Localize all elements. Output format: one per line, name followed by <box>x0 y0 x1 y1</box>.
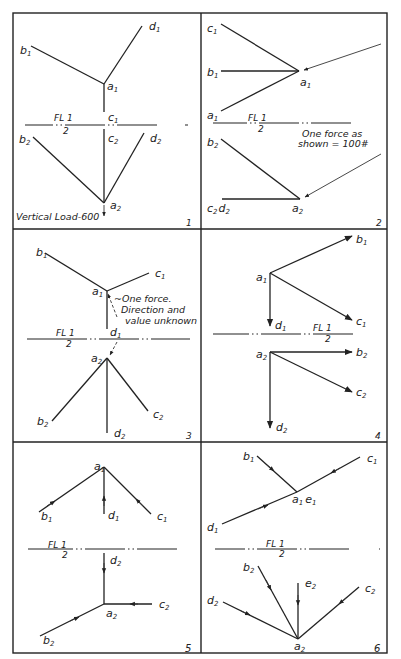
svg-text:FL 1: FL 1 <box>56 328 75 338</box>
svg-text:c1: c1 <box>155 267 166 281</box>
svg-text:d1: d1 <box>149 20 160 34</box>
svg-text:b2: b2 <box>356 346 368 360</box>
svg-text:b2: b2 <box>19 133 31 147</box>
panel-6: b1 c1 a1e1 d1 FL 1 2 b2 e2 c2 d2 a2 6 <box>207 450 380 654</box>
svg-text:c1: c1 <box>207 22 218 36</box>
svg-text:c2: c2 <box>153 408 164 422</box>
svg-text:b1: b1 <box>20 44 31 58</box>
svg-text:b2: b2 <box>37 415 49 429</box>
svg-text:b2: b2 <box>43 634 55 648</box>
svg-text:c1: c1 <box>356 315 367 329</box>
svg-text:2: 2 <box>325 334 331 344</box>
svg-text:a1e1: a1e1 <box>292 493 316 507</box>
svg-text:c2: c2 <box>365 582 376 596</box>
force-diagram-sheet: b1 d1 a1 c1 FL 1 2 b2 c2 d2 a2 Vertical … <box>0 0 401 659</box>
svg-text:6: 6 <box>374 643 380 654</box>
svg-text:3: 3 <box>186 431 192 441</box>
svg-text:2: 2 <box>279 549 285 559</box>
svg-text:a1: a1 <box>107 80 118 94</box>
svg-text:d2: d2 <box>150 132 162 146</box>
svg-text:a2: a2 <box>91 352 103 366</box>
svg-text:FL 1: FL 1 <box>266 539 285 549</box>
svg-text:b1: b1 <box>36 246 47 260</box>
svg-text:a2: a2 <box>256 348 268 362</box>
svg-text:FL 1: FL 1 <box>313 323 332 333</box>
fold-line-label: FL 1 <box>54 113 73 123</box>
svg-text:c2: c2 <box>108 132 119 146</box>
svg-text:2: 2 <box>258 124 264 134</box>
svg-text:e2: e2 <box>305 577 317 591</box>
panel-1: b1 d1 a1 c1 FL 1 2 b2 c2 d2 a2 Vertical … <box>16 20 192 228</box>
svg-text:c2: c2 <box>159 598 170 612</box>
svg-text:2: 2 <box>66 339 72 349</box>
svg-text:c1: c1 <box>157 510 168 524</box>
svg-text:FL 1: FL 1 <box>248 113 267 123</box>
unknown-force-note: ~One force. <box>114 293 171 304</box>
svg-text:c1: c1 <box>108 111 119 125</box>
svg-text:a1: a1 <box>94 460 105 474</box>
svg-text:d2: d2 <box>276 421 288 435</box>
svg-text:d2: d2 <box>207 594 219 608</box>
svg-text:value unknown: value unknown <box>125 315 197 326</box>
svg-text:a1: a1 <box>300 76 311 90</box>
svg-text:FL 1: FL 1 <box>48 540 67 550</box>
svg-text:2: 2 <box>63 126 69 136</box>
svg-text:d1: d1 <box>110 326 121 340</box>
svg-text:b2: b2 <box>207 136 219 150</box>
svg-text:d1: d1 <box>275 319 286 333</box>
svg-text:c1: c1 <box>367 452 378 466</box>
load-note: Vertical Load-600 <box>16 211 99 222</box>
svg-text:a2: a2 <box>106 607 118 621</box>
svg-text:b1: b1 <box>41 510 52 524</box>
svg-text:b1: b1 <box>207 66 218 80</box>
svg-text:d1: d1 <box>108 509 119 523</box>
svg-text:d2: d2 <box>114 427 126 441</box>
svg-text:d2: d2 <box>110 554 122 568</box>
panel-2: c1 b1 a1 a1 FL 1 2 One force as shown = … <box>207 22 382 228</box>
panel-3: b1 c1 a1 d1 ~One force. Direction and va… <box>27 246 197 441</box>
svg-text:a2: a2 <box>294 640 306 654</box>
svg-text:c2: c2 <box>356 386 367 400</box>
panel-number: 1 <box>186 218 192 228</box>
svg-text:2: 2 <box>62 550 68 560</box>
svg-text:5: 5 <box>185 643 191 654</box>
svg-text:a2: a2 <box>292 202 304 216</box>
svg-text:shown = 100#: shown = 100# <box>298 138 369 149</box>
svg-text:a1: a1 <box>207 109 218 123</box>
svg-text:b1: b1 <box>356 233 367 247</box>
svg-text:c2d2: c2d2 <box>207 202 231 216</box>
svg-text:b1: b1 <box>243 450 254 464</box>
svg-text:b2: b2 <box>243 561 255 575</box>
svg-text:a1: a1 <box>256 271 267 285</box>
svg-text:d1: d1 <box>207 521 218 535</box>
svg-text:4: 4 <box>375 431 381 441</box>
panel-4: b1 a1 c1 d1 FL 1 2 a2 b2 c2 d2 4 <box>213 233 381 441</box>
panel-5: a1 b1 d1 c1 FL 1 2 d2 a2 c2 b2 5 <box>28 460 192 654</box>
svg-text:Direction and: Direction and <box>121 304 186 315</box>
svg-text:2: 2 <box>376 218 382 228</box>
svg-text:a2: a2 <box>110 199 122 213</box>
